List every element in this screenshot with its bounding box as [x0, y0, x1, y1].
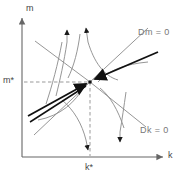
- x-axis-label: k: [168, 151, 173, 160]
- saddle-path-upper-right: [95, 52, 158, 79]
- nullcline-dk-label: Dk = 0: [140, 126, 169, 135]
- phase-diagram-figure: m k m* k* Dm = 0 Dk = 0: [0, 0, 187, 185]
- trajectory-family: [38, 28, 148, 150]
- trajectory-upper-right-arm: [98, 62, 148, 82]
- nullcline-dm-label: Dm = 0: [138, 28, 170, 37]
- trajectory-lower-right-arm: [100, 88, 124, 128]
- saddle-path-lower-left-twin: [30, 86, 86, 122]
- trajectory-lower-right: [120, 92, 126, 142]
- saddle-path-group: [28, 52, 158, 122]
- k-star-tick-label: k*: [85, 163, 93, 172]
- axes-group: [22, 18, 163, 157]
- equilibrium-point: [88, 80, 92, 84]
- trajectory-upper-left-apex: [68, 34, 80, 78]
- saddle-path-lower-left: [28, 84, 86, 116]
- y-axis-label: m: [26, 4, 34, 13]
- m-star-tick-label: m*: [3, 76, 14, 85]
